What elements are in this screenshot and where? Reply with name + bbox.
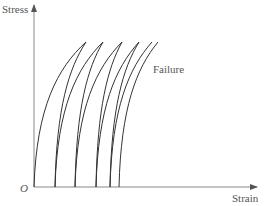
stress-strain-curve [110, 42, 152, 187]
stress-strain-curve [34, 42, 86, 187]
stress-strain-curve [110, 42, 139, 187]
y-axis-label: Stress [2, 4, 28, 15]
stress-strain-curves [34, 42, 158, 187]
failure-annotation: Failure [153, 64, 184, 75]
axes [34, 5, 257, 187]
stress-strain-curve [55, 42, 103, 187]
stress-strain-curve [75, 42, 103, 187]
stress-strain-diagram [0, 0, 266, 206]
origin-label: O [20, 183, 28, 194]
stress-strain-curve [55, 42, 86, 187]
x-axis-label: Strain [232, 193, 258, 204]
